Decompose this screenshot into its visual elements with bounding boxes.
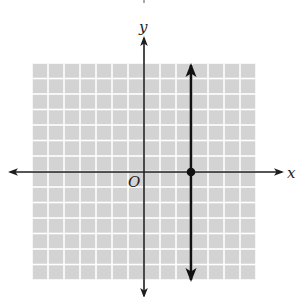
grid-cell: [33, 157, 47, 171]
grid-cell: [145, 203, 159, 217]
grid-cell: [177, 95, 191, 109]
grid-cell: [145, 250, 159, 264]
grid-cell: [225, 265, 239, 279]
grid-cell: [209, 126, 223, 140]
grid-cell: [241, 234, 255, 248]
grid-cell: [97, 126, 111, 140]
grid-cell: [129, 79, 143, 93]
grid-cell: [193, 234, 207, 248]
grid-cell: [209, 157, 223, 171]
grid-cell: [161, 79, 175, 93]
grid-cell: [113, 126, 127, 140]
grid-cell: [65, 157, 79, 171]
grid-cell: [193, 110, 207, 124]
grid-cell: [209, 110, 223, 124]
grid-cell: [97, 172, 111, 186]
grid-cell: [65, 172, 79, 186]
grid-cell: [129, 250, 143, 264]
grid-cell: [33, 188, 47, 202]
grid-cell: [33, 110, 47, 124]
grid-cell: [193, 95, 207, 109]
grid-cell: [145, 172, 159, 186]
grid-cell: [241, 79, 255, 93]
grid-cell: [177, 265, 191, 279]
grid-cell: [145, 126, 159, 140]
grid-cell: [113, 172, 127, 186]
grid-cell: [65, 265, 79, 279]
grid-cell: [33, 234, 47, 248]
grid-cell: [161, 234, 175, 248]
grid-cell: [65, 250, 79, 264]
grid-cell: [145, 265, 159, 279]
grid-cell: [49, 64, 63, 78]
grid-cell: [65, 141, 79, 155]
grid-cell: [49, 126, 63, 140]
grid-cell: [33, 64, 47, 78]
grid-cell: [33, 95, 47, 109]
grid-cell: [241, 172, 255, 186]
grid-cell: [209, 188, 223, 202]
grid-cell: [49, 79, 63, 93]
grid-cell: [193, 157, 207, 171]
grid-cell: [97, 219, 111, 233]
grid-cell: [193, 79, 207, 93]
origin-label: O: [128, 173, 140, 191]
grid-cell: [161, 157, 175, 171]
grid-cell: [177, 250, 191, 264]
grid-cell: [193, 219, 207, 233]
grid-cell: [161, 265, 175, 279]
grid-cell: [129, 265, 143, 279]
grid-cell: [145, 234, 159, 248]
grid-cell: [241, 188, 255, 202]
grid-cell: [225, 95, 239, 109]
grid-cell: [81, 234, 95, 248]
grid-cell: [177, 64, 191, 78]
grid-cell: [177, 234, 191, 248]
grid-cell: [33, 79, 47, 93]
grid-cell: [193, 141, 207, 155]
grid-cell: [97, 79, 111, 93]
grid-cell: [145, 219, 159, 233]
grid-cell: [33, 141, 47, 155]
grid-cell: [113, 141, 127, 155]
grid-cell: [225, 157, 239, 171]
grid-cell: [241, 203, 255, 217]
grid-cell: [97, 203, 111, 217]
grid-cell: [193, 203, 207, 217]
grid-cell: [65, 110, 79, 124]
grid-cell: [161, 64, 175, 78]
grid-cell: [81, 250, 95, 264]
grid-cell: [81, 126, 95, 140]
grid-cell: [81, 188, 95, 202]
grid-cell: [65, 79, 79, 93]
grid-cell: [241, 126, 255, 140]
grid-cell: [65, 64, 79, 78]
grid-cell: [209, 203, 223, 217]
grid-cell: [49, 234, 63, 248]
grid-cell: [241, 265, 255, 279]
grid-cell: [145, 79, 159, 93]
grid-cell: [241, 157, 255, 171]
grid-cell: [113, 64, 127, 78]
grid-cell: [225, 234, 239, 248]
grid-cell: [65, 219, 79, 233]
grid-cell: [209, 172, 223, 186]
grid-cell: [225, 250, 239, 264]
grid-cell: [225, 79, 239, 93]
grid-cell: [177, 126, 191, 140]
grid-cell: [241, 95, 255, 109]
grid-cell: [209, 95, 223, 109]
grid-cell: [209, 234, 223, 248]
grid-cell: [97, 157, 111, 171]
grid-cell: [49, 157, 63, 171]
grid-cell: [225, 64, 239, 78]
grid-cell: [129, 203, 143, 217]
grid-cell: [145, 157, 159, 171]
grid-cell: [209, 219, 223, 233]
grid-cell: [97, 265, 111, 279]
grid-cell: [49, 188, 63, 202]
x-intercept-point: [187, 168, 196, 177]
grid-cell: [193, 265, 207, 279]
grid-cell: [129, 157, 143, 171]
grid-cell: [177, 110, 191, 124]
